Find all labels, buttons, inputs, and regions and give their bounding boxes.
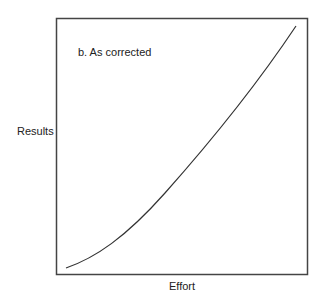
chart-annotation: b. As corrected [78, 46, 151, 58]
chart-area [0, 0, 323, 303]
results-curve [66, 26, 296, 268]
y-axis-label: Results [17, 125, 54, 137]
x-axis-label: Effort [169, 280, 195, 292]
